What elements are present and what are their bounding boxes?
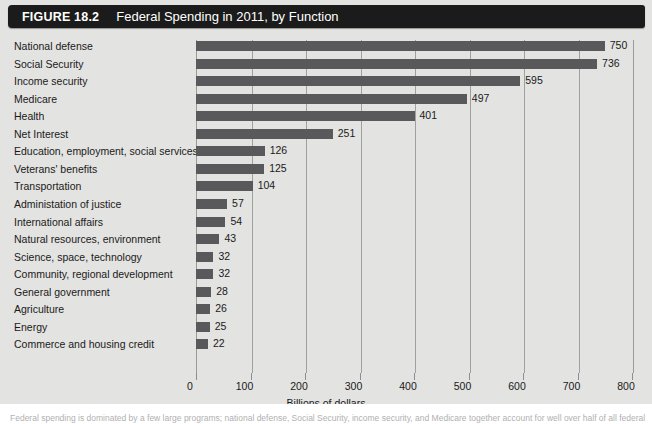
bar [196, 287, 211, 297]
bar [196, 41, 605, 51]
bar [196, 339, 208, 349]
category-label: Net Interest [14, 128, 68, 141]
category-label: General government [14, 286, 110, 299]
category-label: Education, employment, social services [14, 145, 198, 158]
x-tick-mark [469, 373, 470, 380]
figure-container: FIGURE 18.2 Federal Spending in 2011, by… [0, 0, 652, 424]
bar-value-label: 750 [610, 39, 628, 52]
bar [196, 111, 415, 121]
x-tick-mark [523, 373, 524, 380]
category-label: International affairs [14, 216, 103, 229]
bar-row: Income security595 [0, 73, 652, 91]
bar [196, 146, 265, 156]
bar-value-label: 125 [269, 162, 287, 175]
x-tick-label: 100 [236, 380, 254, 392]
bar [196, 76, 520, 86]
bar-value-label: 497 [472, 92, 490, 105]
bar-value-label: 54 [230, 215, 242, 228]
x-tick-label: 600 [508, 380, 526, 392]
bar [196, 252, 213, 262]
category-label: Medicare [14, 93, 57, 106]
bar-rows: National defense750Social Security736Inc… [0, 33, 652, 380]
bar-row: Agriculture26 [0, 301, 652, 319]
x-tick-label: 500 [454, 380, 472, 392]
bar-value-label: 28 [216, 285, 228, 298]
bar-chart: National defense750Social Security736Inc… [0, 33, 652, 403]
bar [196, 129, 333, 139]
bar-row: National defense750 [0, 38, 652, 56]
bar-row: Commerce and housing credit22 [0, 336, 652, 354]
category-label: Transportation [14, 180, 81, 193]
figure-number-label: FIGURE 18.2 [22, 10, 99, 24]
bar-row: Net Interest251 [0, 126, 652, 144]
category-label: Veterans' benefits [14, 163, 97, 176]
category-label: Science, space, technology [14, 251, 142, 264]
bar-row: General government28 [0, 284, 652, 302]
caption-strip: Federal spending is dominated by a few l… [0, 404, 652, 424]
category-label: Community, regional development [14, 268, 173, 281]
bar [196, 199, 227, 209]
bar [196, 234, 219, 244]
bar [196, 59, 597, 69]
x-tick-label: 300 [345, 380, 363, 392]
x-tick-mark [196, 373, 197, 380]
bar-row: International affairs54 [0, 214, 652, 232]
bar [196, 304, 210, 314]
category-label: National defense [14, 40, 93, 53]
bar-row: Social Security736 [0, 56, 652, 74]
x-tick-mark [414, 373, 415, 380]
x-tick-label: 700 [563, 380, 581, 392]
bar-row: Education, employment, social services12… [0, 143, 652, 161]
bar-row: Medicare497 [0, 91, 652, 109]
x-tick-mark [632, 373, 633, 380]
bar [196, 322, 210, 332]
bar-value-label: 32 [218, 267, 230, 280]
bar-value-label: 22 [213, 337, 225, 350]
figure-title-bar: FIGURE 18.2 Federal Spending in 2011, by… [8, 5, 645, 28]
category-label: Energy [14, 321, 47, 334]
bar [196, 164, 264, 174]
bar-value-label: 104 [258, 179, 276, 192]
x-tick-mark [305, 373, 306, 380]
x-tick-label: 400 [399, 380, 417, 392]
bar [196, 217, 225, 227]
bar-value-label: 43 [224, 232, 236, 245]
bar-value-label: 25 [215, 320, 227, 333]
bar-value-label: 57 [232, 197, 244, 210]
bar-row: Veterans' benefits125 [0, 161, 652, 179]
bar [196, 181, 253, 191]
bar-value-label: 126 [270, 144, 288, 157]
bar-row: Health401 [0, 108, 652, 126]
bar-row: Natural resources, environment43 [0, 231, 652, 249]
category-label: Administation of justice [14, 198, 121, 211]
bar-value-label: 595 [525, 74, 543, 87]
category-label: Income security [14, 75, 88, 88]
bar-value-label: 32 [218, 250, 230, 263]
x-tick-label: 800 [617, 380, 635, 392]
category-label: Social Security [14, 58, 83, 71]
bar-row: Administation of justice57 [0, 196, 652, 214]
category-label: Natural resources, environment [14, 233, 160, 246]
x-tick-mark [578, 373, 579, 380]
bar [196, 94, 467, 104]
x-tick-mark [251, 373, 252, 380]
bar-value-label: 736 [602, 57, 620, 70]
bar-value-label: 401 [420, 109, 438, 122]
page-title: Federal Spending in 2011, by Function [116, 9, 338, 24]
bar [196, 269, 213, 279]
bar-row: Community, regional development32 [0, 266, 652, 284]
x-tick-mark [360, 373, 361, 380]
x-tick-label: 0 [187, 380, 193, 392]
bar-value-label: 251 [338, 127, 356, 140]
category-label: Health [14, 110, 44, 123]
category-label: Agriculture [14, 303, 64, 316]
bar-row: Energy25 [0, 319, 652, 337]
x-axis: Billions of dollars 01002003004005006007… [0, 373, 652, 403]
category-label: Commerce and housing credit [14, 338, 154, 351]
bar-value-label: 26 [215, 302, 227, 315]
bar-row: Science, space, technology32 [0, 249, 652, 267]
x-tick-label: 200 [290, 380, 308, 392]
bar-row: Transportation104 [0, 178, 652, 196]
figure-caption: Federal spending is dominated by a few l… [10, 413, 646, 423]
